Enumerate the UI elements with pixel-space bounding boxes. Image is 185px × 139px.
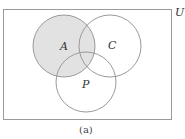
universe-label: U [175, 6, 185, 19]
set-p-label: P [81, 78, 90, 91]
set-c-label: C [108, 39, 117, 52]
figure-caption: (a) [79, 124, 93, 135]
venn-diagram: A C P U (a) [0, 0, 185, 139]
set-a-label: A [59, 40, 68, 53]
